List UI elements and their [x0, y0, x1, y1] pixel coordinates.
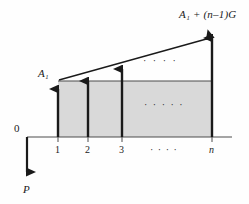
base-amount-label-text: A₁	[38, 67, 49, 79]
tick-label-2-text: 2	[85, 144, 90, 155]
arithmetic-gradient-cash-flow-diagram: A₁ + (n–1)G A₁ 0 P 1 2 3 n · · · · · · ·…	[0, 0, 249, 204]
interior-ellipsis-text: · · · · ·	[144, 99, 184, 110]
tick-label-n-text: n	[209, 144, 214, 155]
tick-label-1-text: 1	[55, 144, 60, 155]
origin-label: 0	[14, 123, 20, 134]
gradient-peak-label: A₁ + (n–1)G	[179, 9, 236, 20]
tick-label-2: 2	[85, 145, 90, 155]
axis-ellipsis-text: · · · ·	[150, 144, 178, 155]
tick-label-n: n	[209, 145, 214, 155]
cash-flow-diagram-canvas	[0, 0, 249, 204]
gradient-peak-label-text: A₁ + (n–1)G	[179, 8, 236, 20]
gradient-envelope-line	[59, 38, 210, 80]
tick-label-3-text: 3	[119, 144, 124, 155]
base-amount-label: A₁	[38, 68, 49, 79]
tick-label-3: 3	[119, 145, 124, 155]
present-worth-label: P	[23, 184, 30, 195]
tick-label-1: 1	[55, 145, 60, 155]
interior-ellipsis: · · · · ·	[144, 100, 184, 110]
uniform-series-shaded-region	[58, 81, 212, 137]
origin-label-text: 0	[14, 122, 20, 134]
axis-ellipsis: · · · ·	[150, 145, 178, 155]
upper-ellipsis: · · · ·	[143, 56, 178, 66]
upper-ellipsis-text: · · · ·	[143, 55, 178, 66]
present-worth-label-text: P	[23, 183, 30, 195]
